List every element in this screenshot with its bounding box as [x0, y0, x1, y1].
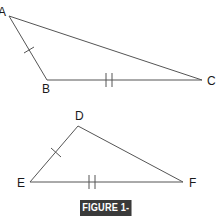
triangle-def — [30, 126, 183, 189]
vertex-label-a: A — [0, 5, 6, 19]
triangle-def-outline — [30, 126, 183, 182]
vertex-label-d: D — [75, 109, 84, 123]
tick-mark-ab — [24, 47, 34, 53]
figure-caption: FIGURE 1-18 — [80, 200, 132, 216]
vertex-label-f: F — [189, 176, 196, 190]
figure-diagram: A B C D E F — [0, 0, 223, 221]
vertex-label-e: E — [17, 176, 25, 190]
triangle-abc — [9, 16, 202, 87]
vertex-label-b: B — [42, 82, 50, 96]
vertex-label-c: C — [207, 74, 216, 88]
triangle-abc-outline — [9, 16, 202, 80]
